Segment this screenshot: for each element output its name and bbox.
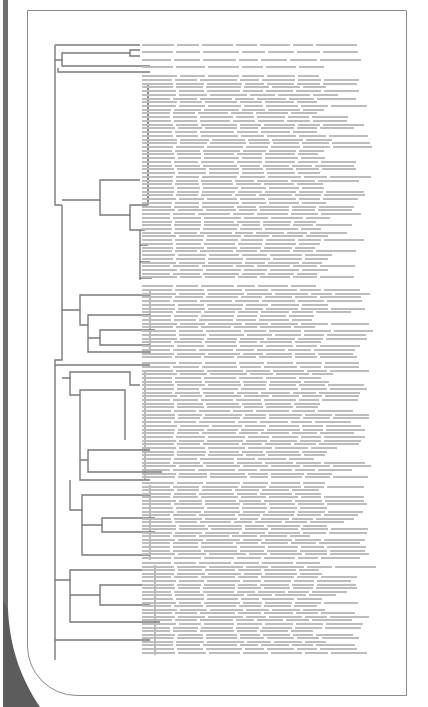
taxon-label: [142, 138, 335, 141]
taxon-label: [142, 356, 360, 359]
taxon-label: [142, 609, 328, 612]
taxon-label: [142, 626, 364, 629]
taxon-label: [142, 176, 374, 179]
taxon-label: [142, 213, 364, 216]
taxon-label: [142, 349, 358, 352]
taxon-label: [142, 580, 354, 583]
taxon-label: [142, 239, 367, 242]
taxon-label: [142, 454, 328, 457]
taxon-label: [142, 261, 325, 264]
taxon-label: [142, 369, 372, 372]
taxon-label: [142, 417, 372, 420]
taxon-label: [142, 300, 365, 303]
taxon-label: [142, 161, 359, 164]
taxon-label: [142, 265, 358, 268]
taxon-label: [142, 535, 313, 538]
taxon-label: [142, 414, 372, 417]
taxon-label: [142, 101, 320, 104]
taxon-label: [142, 75, 322, 78]
taxon-label: [142, 330, 376, 333]
taxon-label: [142, 525, 330, 528]
taxon-label: [142, 377, 324, 380]
taxon-label: [142, 198, 361, 201]
taxon-label: [142, 112, 320, 115]
taxon-label: [142, 51, 361, 54]
taxon-label: [142, 476, 371, 479]
taxon-label: [142, 285, 319, 288]
taxon-label: [142, 447, 340, 450]
taxon-label: [142, 439, 364, 442]
taxon-label: [142, 326, 318, 329]
taxon-label: [142, 235, 331, 238]
taxon-label: [142, 406, 321, 409]
taxon-label: [142, 142, 373, 145]
taxon-label: [142, 345, 363, 348]
taxon-label: [142, 209, 355, 212]
taxon-label: [142, 428, 368, 431]
taxon-label: [142, 334, 369, 337]
taxon-label: [142, 432, 357, 435]
taxon-label: [142, 146, 375, 149]
taxon-label: [142, 59, 364, 62]
taxon-label: [142, 500, 367, 503]
taxon-label: [142, 90, 362, 93]
taxon-label: [142, 366, 362, 369]
taxon-label: [142, 539, 368, 542]
taxon-label: [142, 644, 358, 647]
taxon-label: [142, 605, 320, 608]
taxon-label: [142, 116, 351, 119]
taxon-label: [142, 338, 370, 341]
taxon-label: [142, 254, 335, 257]
taxon-label: [142, 591, 350, 594]
taxon-label: [142, 194, 368, 197]
taxon-label: [142, 616, 372, 619]
taxon-label: [142, 276, 357, 279]
taxon-label: [142, 380, 332, 383]
taxon-label: [142, 493, 324, 496]
taxon-label: [142, 289, 363, 292]
taxon-label: [142, 542, 363, 545]
taxon-label: [142, 353, 356, 356]
taxon-label: [142, 546, 369, 549]
taxon-label: [142, 319, 315, 322]
taxon-label: [142, 425, 364, 428]
taxon-label: [142, 651, 370, 654]
taxon-label: [142, 220, 319, 223]
taxon-label: [142, 601, 361, 604]
taxon-label: [142, 66, 327, 69]
taxon-label: [142, 183, 326, 186]
taxon-label: [142, 323, 372, 326]
taxon-label: [142, 123, 367, 126]
taxon-label: [142, 97, 359, 100]
taxon-label: [142, 384, 367, 387]
taxon-label: [142, 503, 370, 506]
taxon-label: [142, 641, 329, 644]
taxon-label: [142, 399, 361, 402]
taxon-label: [142, 373, 336, 376]
taxon-label: [142, 553, 372, 556]
taxon-label: [142, 507, 330, 510]
taxon-label: [142, 637, 362, 640]
taxon-label: [142, 150, 327, 153]
taxon-label: [142, 202, 329, 205]
taxon-label: [142, 341, 324, 344]
taxon-label: [142, 403, 323, 406]
taxon-label: [142, 486, 367, 489]
taxon-label: [142, 458, 317, 461]
taxon-label: [142, 443, 362, 446]
taxon-label: [142, 232, 350, 235]
taxon-label: [142, 562, 323, 565]
taxon-label: [142, 86, 329, 89]
taxon-label: [142, 243, 323, 246]
taxon-label: [142, 217, 333, 220]
taxon-label: [142, 462, 368, 465]
taxon-label: [142, 120, 350, 123]
taxon-labels: [142, 42, 406, 652]
taxon-label: [142, 187, 327, 190]
taxon-label: [142, 153, 321, 156]
taxon-label: [142, 510, 366, 513]
taxon-label: [142, 127, 357, 130]
taxon-label: [142, 250, 359, 253]
taxon-label: [142, 576, 360, 579]
taxon-label: [142, 362, 362, 365]
